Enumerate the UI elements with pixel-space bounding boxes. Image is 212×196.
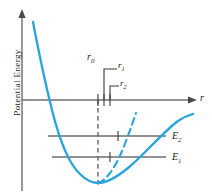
E1-label-sub: 1 xyxy=(178,157,181,164)
y-axis-label: Potential Energy xyxy=(13,35,22,131)
potential-energy-curve xyxy=(33,22,193,183)
energy-level-group xyxy=(48,131,166,162)
r2-label-sub: 2 xyxy=(124,84,127,90)
axis-group xyxy=(18,9,197,191)
x-axis-label-text: r xyxy=(200,92,204,103)
figure-canvas xyxy=(0,0,212,196)
r2-bracket xyxy=(110,86,119,100)
E1-label: E1 xyxy=(172,152,182,165)
x-axis-label: r xyxy=(200,93,204,103)
E2-label: E2 xyxy=(172,131,182,144)
r1-label-sub: 1 xyxy=(122,66,125,72)
r1-label: r1 xyxy=(118,61,125,72)
E2-label-sub: 2 xyxy=(178,136,181,143)
x-axis-arrow-icon xyxy=(188,97,197,104)
r0-label-sub: 0 xyxy=(91,57,94,64)
harmonic-parabola-curve xyxy=(98,113,136,183)
potential-energy-figure: Potential Energy r0 r1 r2 r E2 E1 xyxy=(0,0,212,196)
r2-label: r2 xyxy=(120,79,127,90)
r0-label: r0 xyxy=(87,52,94,65)
y-axis-arrow-icon xyxy=(18,9,25,18)
